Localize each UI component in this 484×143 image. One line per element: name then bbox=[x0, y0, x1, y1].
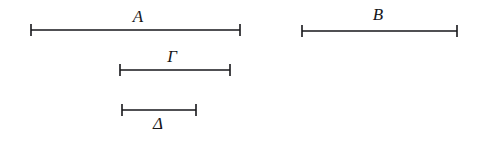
line-segment-diagram: A B Γ Δ bbox=[0, 0, 484, 143]
segment-label-Gamma: Γ bbox=[167, 48, 177, 65]
segment-label-B: B bbox=[373, 6, 383, 23]
segment-label-Delta: Δ bbox=[153, 115, 163, 132]
segments-canvas bbox=[0, 0, 484, 143]
segment-label-A: A bbox=[133, 8, 143, 25]
segment-B bbox=[302, 25, 457, 37]
segment-strokes bbox=[31, 24, 457, 116]
